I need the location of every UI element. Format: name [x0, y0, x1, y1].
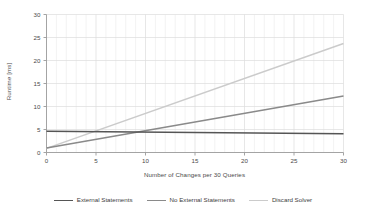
y-axis-label: Runtime [ms] — [5, 50, 12, 114]
x-tick-label: 0 — [34, 157, 60, 164]
chart-figure: Runtime [ms] Number of Changes per 30 Qu… — [0, 0, 366, 219]
chart-legend: External StatementsNo External Statement… — [0, 196, 366, 204]
y-tick-label: 0 — [15, 149, 41, 156]
legend-item[interactable]: No External Statements — [147, 196, 235, 204]
y-tick-label: 25 — [15, 34, 41, 41]
x-tick-label: 15 — [182, 157, 208, 164]
legend-label: No External Statements — [170, 196, 235, 204]
y-tick-label: 15 — [15, 80, 41, 87]
tick-marks — [44, 15, 344, 156]
x-tick-label: 30 — [331, 157, 357, 164]
y-tick-label: 30 — [15, 11, 41, 18]
legend-line-icon — [147, 200, 166, 201]
x-tick-label: 10 — [133, 157, 159, 164]
y-tick-label: 10 — [15, 103, 41, 110]
x-tick-label: 25 — [281, 157, 307, 164]
legend-label: Discard Solver — [272, 196, 312, 204]
y-tick-label: 5 — [15, 126, 41, 133]
legend-item[interactable]: Discard Solver — [249, 196, 312, 204]
x-tick-label: 20 — [232, 157, 258, 164]
legend-label: External Statements — [77, 196, 133, 204]
x-axis-label: Number of Changes per 30 Queries — [46, 171, 343, 178]
x-tick-label: 5 — [83, 157, 109, 164]
legend-line-icon — [249, 200, 268, 201]
plot-area — [0, 0, 366, 219]
legend-item[interactable]: External Statements — [54, 196, 133, 204]
legend-line-icon — [54, 200, 73, 201]
y-tick-label: 20 — [15, 57, 41, 64]
